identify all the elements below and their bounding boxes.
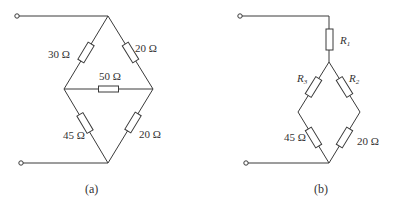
label-r3: R3 [296, 72, 308, 86]
terminal-top-a [15, 14, 19, 18]
resistor-r3 [305, 77, 321, 98]
wire-top-lead-b [242, 16, 329, 62]
terminal-bottom-b [244, 161, 248, 165]
label-50ohm: 50 Ω [99, 70, 121, 82]
label-45ohm-b: 45 Ω [284, 131, 306, 143]
label-r1: R1 [339, 34, 350, 48]
caption-a: (a) [85, 182, 98, 196]
resistor-50ohm [99, 86, 119, 92]
label-45ohm: 45 Ω [63, 129, 85, 141]
label-20ohm-top: 20 Ω [135, 42, 157, 54]
label-20ohm-b: 20 Ω [357, 135, 379, 147]
resistor-20ohm-b [336, 127, 352, 148]
terminal-top-b [238, 14, 242, 18]
label-30ohm: 30 Ω [48, 48, 70, 60]
circuit-diagram: 30 Ω 20 Ω 50 Ω 45 Ω 20 Ω (a) R1 R3 R2 45… [0, 0, 394, 210]
label-r2: R2 [348, 72, 360, 86]
resistor-45ohm-b [305, 127, 321, 148]
caption-b: (b) [314, 182, 328, 196]
resistor-r1 [326, 29, 333, 50]
circuit-a: 30 Ω 20 Ω 50 Ω 45 Ω 20 Ω (a) [15, 14, 161, 196]
circuit-b: R1 R3 R2 45 Ω 20 Ω (b) [238, 14, 379, 196]
resistor-30ohm [78, 42, 94, 63]
label-20ohm-bottom: 20 Ω [139, 128, 161, 140]
terminal-bottom-a [19, 161, 23, 165]
